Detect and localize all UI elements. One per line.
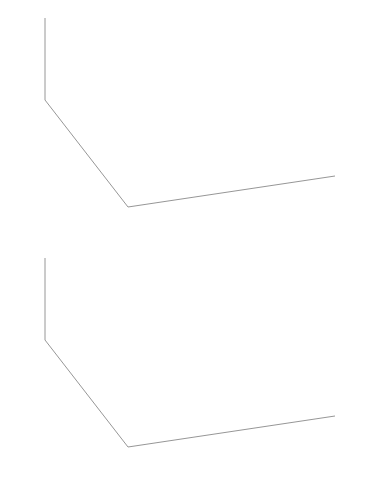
plot-bottom-svg	[0, 240, 369, 500]
x-axis-top	[128, 176, 335, 207]
axes-bottom	[45, 258, 335, 447]
panel-first-principal-component	[0, 0, 369, 240]
y-axis-top	[45, 100, 128, 207]
axes-top	[45, 18, 335, 207]
y-axis-bottom	[45, 340, 128, 447]
plot-top-svg	[0, 0, 369, 240]
panel-principal-plane	[0, 240, 369, 500]
x-axis-bottom	[128, 416, 335, 447]
